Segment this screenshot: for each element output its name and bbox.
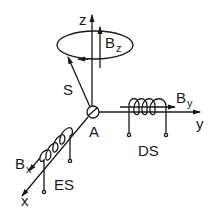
diagram-canvas: z Bz S By y A DS Bx ES x — [0, 0, 215, 211]
x-axis-label: x — [21, 193, 29, 208]
bz-label: Bz — [105, 35, 122, 50]
by-label-main: B — [176, 89, 186, 106]
bx-label: Bx — [15, 156, 32, 171]
bx-label-main: B — [15, 155, 25, 172]
spin-s-label: S — [63, 82, 73, 97]
ds-coil — [127, 99, 167, 137]
z-axis-label: z — [79, 12, 87, 27]
origin-a-label: A — [89, 124, 99, 139]
by-label: By — [176, 90, 193, 105]
by-label-sub: y — [187, 97, 193, 109]
bz-label-sub: z — [116, 42, 122, 54]
bx-label-sub: x — [26, 163, 32, 175]
bz-label-main: B — [105, 34, 115, 51]
ds-coil-label: DS — [138, 143, 159, 158]
es-coil-label: ES — [54, 177, 74, 192]
y-axis-label: y — [196, 116, 204, 131]
